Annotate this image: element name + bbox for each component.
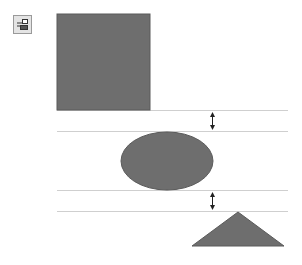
spacing-arrow-icon bbox=[210, 192, 215, 210]
square-shape[interactable] bbox=[57, 14, 150, 110]
triangle-shape[interactable] bbox=[192, 212, 284, 246]
oval-shape[interactable] bbox=[121, 132, 213, 190]
spacing-arrow-icon bbox=[210, 112, 215, 130]
diagram-canvas bbox=[0, 0, 302, 265]
